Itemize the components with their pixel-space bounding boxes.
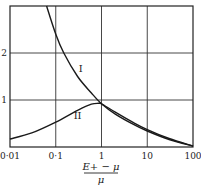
curve-label-II: II	[74, 110, 82, 121]
x-tick-label: 100	[184, 151, 201, 161]
x-tick-label: 10	[142, 151, 154, 161]
x-tick-label: 1	[99, 151, 105, 161]
x-tick-label: 0·1	[49, 151, 63, 161]
x-axis-label: E+ − μ μ	[82, 161, 120, 185]
y-tick-labels: 12	[1, 48, 7, 105]
y-tick-label: 2	[1, 48, 7, 58]
x-tick-label: 0·01	[0, 151, 20, 161]
chart: 12 0·010·1110100 III E+ − μ μ	[0, 0, 201, 186]
x-tick-labels: 0·010·1110100	[0, 151, 201, 161]
y-tick-label: 1	[1, 95, 7, 105]
grid	[10, 6, 193, 147]
curve-I	[47, 6, 193, 146]
x-axis-label-denominator: μ	[98, 174, 105, 185]
x-axis-label-numerator: E+ − μ	[82, 161, 120, 172]
curve-label-I: I	[79, 63, 83, 74]
